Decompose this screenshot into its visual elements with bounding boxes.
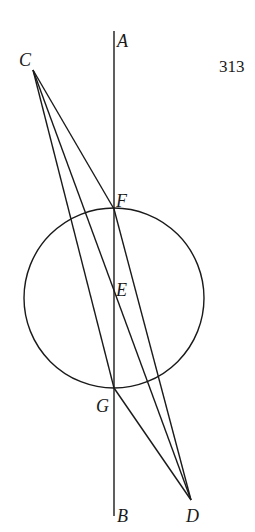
line-cg: [33, 70, 114, 388]
geometry-diagram: A B C D E F G 313: [0, 0, 255, 532]
line-cf: [33, 70, 114, 209]
label-a: A: [116, 31, 129, 51]
label-c: C: [19, 50, 32, 70]
label-f: F: [115, 191, 128, 211]
line-gd: [114, 388, 191, 500]
line-fd: [114, 209, 191, 500]
label-g: G: [96, 396, 109, 416]
line-ced: [33, 70, 191, 500]
page-number: 313: [219, 57, 245, 76]
label-d: D: [185, 506, 199, 526]
label-e: E: [115, 280, 127, 300]
label-b: B: [117, 506, 128, 526]
